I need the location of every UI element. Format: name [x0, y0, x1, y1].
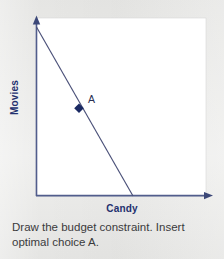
- y-axis-title: Movies: [9, 68, 20, 128]
- x-axis-arrow-icon: [204, 192, 213, 199]
- screenshot-root: Movies Candy A Draw the budget constrain…: [0, 0, 224, 259]
- caption-line-1: Draw the budget constraint. Insert: [12, 220, 218, 235]
- x-axis-title: Candy: [36, 203, 208, 214]
- point-a-label: A: [88, 93, 95, 105]
- point-a-marker-core: [76, 106, 81, 111]
- budget-constraint-chart: [0, 0, 224, 218]
- plot-panel: [36, 18, 206, 196]
- caption-line-2: optimal choice A.: [12, 235, 218, 250]
- budget-constraint-figure: Movies Candy A: [0, 0, 224, 218]
- figure-caption: Draw the budget constraint. Insert optim…: [12, 220, 218, 250]
